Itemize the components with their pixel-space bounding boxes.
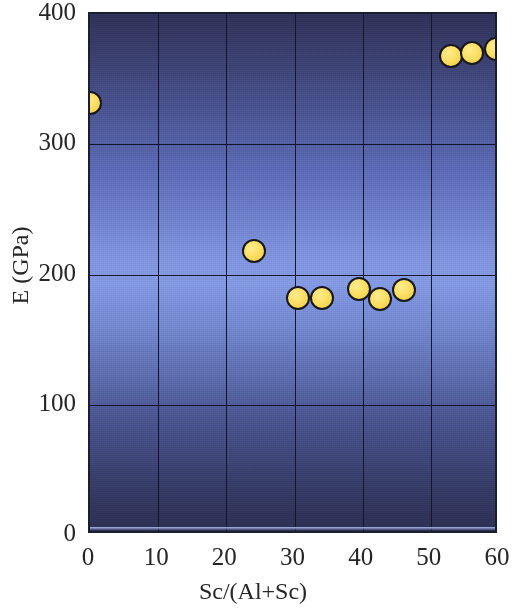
plot-background-gradient bbox=[90, 14, 495, 531]
y-tick-label: 300 bbox=[0, 129, 76, 154]
y-tick-label: 100 bbox=[0, 390, 76, 415]
gridline-vertical bbox=[226, 14, 227, 531]
data-point-marker bbox=[286, 286, 310, 310]
x-axis-title: Sc/(Al+Sc) bbox=[0, 578, 506, 605]
data-point-marker bbox=[460, 41, 484, 65]
gridline-horizontal bbox=[90, 405, 495, 406]
gridline-vertical bbox=[363, 14, 364, 531]
gridline-horizontal bbox=[90, 144, 495, 145]
y-tick-label: 0 bbox=[0, 520, 76, 545]
x-tick-label: 60 bbox=[457, 544, 513, 569]
y-tick-label: 400 bbox=[0, 0, 76, 24]
gridline-horizontal bbox=[90, 275, 495, 276]
data-point-marker bbox=[392, 278, 416, 302]
data-point-marker bbox=[310, 286, 334, 310]
gridline-vertical bbox=[431, 14, 432, 531]
data-point-marker bbox=[242, 239, 266, 263]
y-axis-title: E (GPa) bbox=[7, 186, 34, 346]
gridline-vertical bbox=[295, 14, 296, 531]
gridline-vertical bbox=[158, 14, 159, 531]
plot-area bbox=[88, 12, 497, 533]
data-point-marker bbox=[368, 287, 392, 311]
